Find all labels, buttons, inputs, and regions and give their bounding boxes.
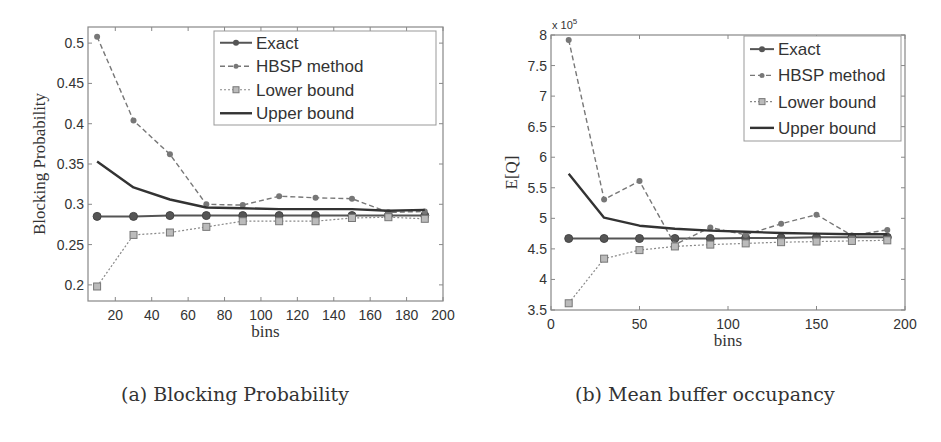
y-tick-label: 0.2 — [65, 277, 85, 293]
series-exact — [93, 212, 429, 221]
y-tick-label: 0.5 — [65, 35, 85, 51]
chart-mean-buffer-occupancy: 3.544.555.566.577.58050100150200binsE[Q]… — [470, 0, 941, 360]
y-tick-label: 4 — [539, 271, 547, 287]
x-tick-label: 180 — [395, 307, 419, 323]
x-tick-label: 100 — [249, 307, 273, 323]
x-axis-label: bins — [251, 322, 279, 341]
y-axis-label: E[Q] — [502, 156, 521, 190]
legend-label: Exact — [256, 34, 299, 53]
x-tick-label: 140 — [322, 307, 346, 323]
series-upper-bound — [569, 174, 888, 235]
x-tick-label: 160 — [358, 307, 382, 323]
series-lower-bound — [565, 237, 891, 307]
x-tick-label: 100 — [716, 316, 740, 332]
y-tick-label: 7.5 — [528, 58, 548, 74]
y-tick-label: 0.25 — [57, 237, 84, 253]
y-tick-label: 5 — [539, 210, 547, 226]
legend-label: Upper bound — [256, 104, 354, 123]
y-tick-label: 6 — [539, 149, 547, 165]
x-tick-label: 200 — [893, 316, 917, 332]
y-axis-label: Blocking Probability — [30, 92, 49, 235]
y-tick-label: 5.5 — [528, 180, 548, 196]
y-tick-label: 7 — [539, 88, 547, 104]
x-tick-label: 120 — [286, 307, 310, 323]
caption-b: (b) Mean buffer occupancy — [575, 383, 835, 405]
x-tick-label: 50 — [632, 316, 648, 332]
legend-label: HBSP method — [778, 66, 885, 85]
x-tick-label: 150 — [805, 316, 829, 332]
y-tick-label: 0.45 — [57, 75, 84, 91]
figure-b: 3.544.555.566.577.58050100150200binsE[Q]… — [470, 0, 941, 360]
series-upper-bound — [97, 162, 425, 211]
y-tick-label: 6.5 — [528, 119, 548, 135]
legend: ExactHBSP methodLower boundUpper bound — [744, 36, 901, 141]
y-tick-label: 3.5 — [528, 302, 548, 318]
legend-label: Upper bound — [778, 119, 876, 138]
y-tick-label: 0.3 — [65, 196, 85, 212]
y-tick-label: 8 — [539, 27, 547, 43]
legend-label: HBSP method — [256, 57, 363, 76]
caption-a: (a) Blocking Probability — [121, 383, 349, 405]
legend-label: Lower bound — [778, 93, 876, 112]
y-tick-label: 4.5 — [528, 241, 548, 257]
y-tick-label: 0.4 — [65, 116, 85, 132]
x-tick-label: 0 — [547, 316, 555, 332]
x-axis-label: bins — [714, 331, 742, 350]
x-tick-label: 40 — [144, 307, 160, 323]
x-tick-label: 80 — [217, 307, 233, 323]
legend-label: Lower bound — [256, 81, 354, 100]
figure-a: 0.20.250.30.350.40.450.52040608010012014… — [0, 0, 470, 360]
y-tick-label: 0.35 — [57, 156, 84, 172]
legend-label: Exact — [778, 40, 821, 59]
x-tick-label: 60 — [180, 307, 196, 323]
chart-blocking-probability: 0.20.250.30.350.40.450.52040608010012014… — [0, 0, 470, 360]
x-tick-label: 200 — [431, 307, 455, 323]
x-tick-label: 20 — [108, 307, 124, 323]
y-multiplier-label: x 105 — [552, 17, 578, 31]
legend: ExactHBSP methodLower boundUpper bound — [214, 31, 436, 125]
series-lower-bound — [94, 214, 429, 290]
